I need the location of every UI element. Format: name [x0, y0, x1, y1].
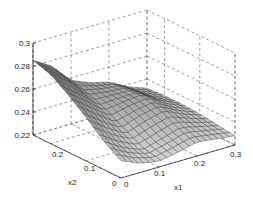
x2-tick-0.1: 0.1	[84, 164, 96, 173]
x1-tick-0.2: 0.2	[194, 159, 206, 168]
x1-tick-0.3: 0.3	[230, 150, 242, 159]
z-tick-2: 0.26	[14, 85, 30, 94]
z-tick-0: 0.3	[19, 39, 31, 48]
surface-plot: 0.3 0.28 0.26 0.24 0.22 0.2 0.1 0 x2 0 0…	[0, 0, 253, 204]
x1-tick-0: 0	[124, 180, 129, 189]
x2-axis-label: x2	[68, 178, 77, 187]
x1-axis-label: x1	[174, 183, 183, 192]
surface-mesh	[33, 60, 235, 163]
x2-tick-0: 0	[112, 179, 117, 188]
x2-tick-0.2: 0.2	[52, 150, 64, 159]
z-tick-1: 0.28	[14, 62, 30, 71]
x1-tick-0.1: 0.1	[154, 169, 166, 178]
z-tick-3: 0.24	[14, 108, 30, 117]
z-tick-4: 0.22	[14, 131, 30, 140]
